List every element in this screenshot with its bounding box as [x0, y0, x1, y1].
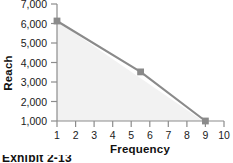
x-tick-label: 5	[128, 129, 134, 141]
x-tick-label: 2	[73, 129, 79, 141]
data-point-marker	[137, 69, 144, 76]
x-axis-ticks	[57, 121, 224, 127]
y-tick-label: 6,000	[21, 18, 47, 30]
figure-caption-text: Exhibit 2-13	[2, 155, 72, 163]
chart-figure: 7,000 6,000 5,000 4,000 3,000 2,000 1,00…	[0, 0, 233, 163]
area-fill	[57, 21, 203, 121]
y-tick-label: 2,000	[21, 96, 47, 108]
y-tick-label: 1,000	[21, 115, 47, 127]
x-axis-tick-labels: 1 2 3 4 5 6 7 8 9 10	[54, 129, 230, 141]
y-tick-label: 3,000	[21, 76, 47, 88]
y-tick-label: 7,000	[21, 0, 47, 10]
y-axis-title: Reach	[2, 55, 14, 91]
x-tick-label: 6	[147, 129, 153, 141]
x-axis-title: Frequency	[110, 143, 170, 155]
x-tick-label: 3	[91, 129, 97, 141]
reach-frequency-line-chart: 7,000 6,000 5,000 4,000 3,000 2,000 1,00…	[0, 0, 233, 163]
y-tick-label: 4,000	[21, 57, 47, 69]
x-tick-label: 10	[218, 129, 230, 141]
data-point-marker	[54, 18, 61, 25]
figure-caption: Exhibit 2-13	[0, 155, 233, 163]
y-tick-label: 5,000	[21, 37, 47, 49]
x-tick-label: 1	[54, 129, 60, 141]
y-axis-tick-labels: 7,000 6,000 5,000 4,000 3,000 2,000 1,00…	[21, 0, 47, 127]
x-tick-label: 8	[184, 129, 190, 141]
x-tick-label: 4	[110, 129, 116, 141]
x-tick-label: 7	[165, 129, 171, 141]
x-tick-label: 9	[202, 129, 208, 141]
data-point-marker	[202, 118, 209, 125]
